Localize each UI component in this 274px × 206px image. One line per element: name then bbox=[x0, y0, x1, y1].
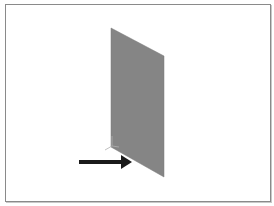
scene-canvas[interactable] bbox=[0, 0, 274, 206]
arrow-right-icon bbox=[79, 155, 132, 169]
plate-surface[interactable] bbox=[111, 28, 164, 177]
